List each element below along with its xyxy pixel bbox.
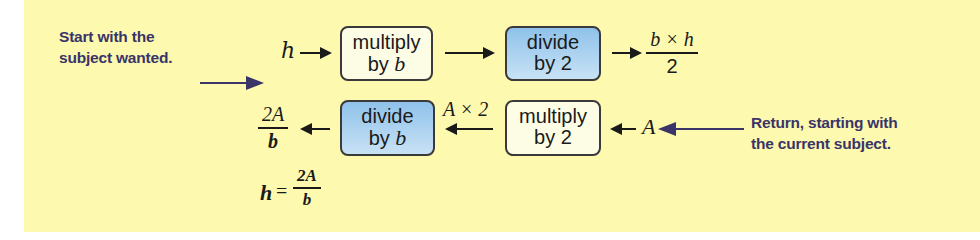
forward-result-fraction: b × h 2	[646, 28, 698, 78]
start-note-line1: Start with the	[59, 26, 172, 47]
box-divide-by-2: divide by 2	[505, 26, 601, 81]
box-label-line1: divide	[507, 32, 599, 53]
return-note: Return, starting with the current subjec…	[751, 112, 898, 154]
return-pointer-arrow	[662, 128, 744, 130]
denominator: b	[293, 190, 321, 210]
box-label-line1: multiply	[507, 106, 599, 127]
numerator: b × h	[646, 28, 698, 51]
reverse-arrow-3	[302, 128, 330, 130]
final-lhs: h	[260, 180, 272, 206]
box-multiply-by-2: multiply by 2	[505, 100, 601, 156]
reverse-input-a: A	[642, 114, 655, 140]
numerator: 2A	[258, 103, 288, 126]
denominator: 2	[646, 55, 698, 78]
final-fraction: 2A b	[293, 166, 321, 210]
by-text: by	[368, 53, 395, 75]
intermediate-a-times-2: A × 2	[443, 98, 488, 121]
fraction-bar	[293, 187, 321, 189]
var-b: b	[394, 51, 405, 76]
box-label-line1: multiply	[342, 32, 431, 53]
start-note-line2: subject wanted.	[59, 47, 172, 68]
reverse-result-fraction: 2A b	[258, 103, 288, 153]
fraction-bar	[258, 127, 288, 129]
forward-arrow-2	[445, 52, 493, 54]
box-multiply-by-b: multiply by b	[340, 26, 433, 81]
fraction-bar	[646, 52, 698, 54]
return-note-line1: Return, starting with	[751, 112, 898, 133]
denominator: b	[258, 130, 288, 153]
box-divide-by-b: divide by b	[340, 100, 435, 156]
forward-arrow-1	[300, 52, 330, 54]
forward-arrow-3	[612, 52, 640, 54]
forward-input-h: h	[281, 38, 295, 63]
return-note-line2: the current subject.	[751, 133, 898, 154]
reverse-arrow-2	[447, 128, 493, 130]
final-equals: =	[276, 180, 287, 203]
numerator: 2A	[293, 166, 321, 186]
by-text: by	[369, 127, 396, 149]
box-label-line2: by 2	[507, 127, 599, 148]
start-note: Start with the subject wanted.	[59, 26, 172, 68]
box-label-line1: divide	[342, 106, 433, 127]
box-label-line2: by 2	[507, 53, 599, 74]
var-b: b	[395, 125, 406, 150]
start-pointer-arrow	[200, 82, 260, 84]
box-label-line2: by b	[342, 53, 431, 75]
reverse-arrow-1	[612, 128, 636, 130]
box-label-line2: by b	[342, 127, 433, 149]
